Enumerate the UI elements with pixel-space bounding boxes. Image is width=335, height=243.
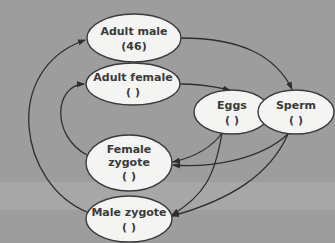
- edge-adult-female-to-eggs: [180, 84, 230, 90]
- edge-male-zygote-to-adult-male: [29, 40, 87, 212]
- node-adult-male: Adult male (46): [87, 14, 181, 62]
- node-sperm: Sperm ( ): [258, 90, 334, 134]
- edge-eggs-to-female-zygote: [173, 133, 222, 162]
- node-female-zygote: Female zygote ( ): [86, 135, 172, 191]
- chromosome-count: ( ): [225, 114, 239, 127]
- node-label-line2: zygote: [108, 156, 150, 169]
- node-label: Eggs: [217, 99, 247, 112]
- node-label: Male zygote: [91, 206, 166, 219]
- node-label: Female: [107, 143, 152, 156]
- chromosome-count: ( ): [126, 86, 140, 99]
- edge-female-zygote-to-adult-female: [61, 84, 87, 155]
- chromosome-count: ( ): [122, 221, 136, 234]
- node-label: Adult male: [100, 25, 167, 38]
- chromosome-count: (46): [121, 40, 146, 53]
- life-cycle-diagram: Adult male (46) Adult female ( ) Eggs ( …: [0, 0, 335, 243]
- node-label: Sperm: [276, 99, 316, 112]
- node-adult-female: Adult female ( ): [86, 63, 180, 105]
- chromosome-count: ( ): [289, 114, 303, 127]
- chromosome-count: ( ): [122, 170, 136, 183]
- edge-eggs-to-male-zygote: [172, 133, 222, 215]
- edge-adult-male-to-sperm: [181, 38, 292, 89]
- node-label: Adult female: [93, 71, 172, 84]
- node-male-zygote: Male zygote ( ): [86, 196, 172, 242]
